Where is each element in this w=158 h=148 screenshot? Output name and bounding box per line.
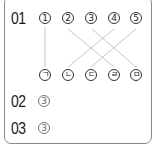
question-number-02: 02 bbox=[11, 93, 26, 110]
top-item-4: 4 bbox=[108, 12, 120, 24]
question-number-03: 03 bbox=[11, 120, 26, 137]
answer-02: 3 bbox=[38, 95, 50, 107]
top-item-2: 2 bbox=[62, 12, 74, 24]
top-item-5: 5 bbox=[130, 12, 142, 24]
bottom-item-digeut: ㄷ bbox=[85, 69, 97, 81]
answer-03: 3 bbox=[38, 122, 50, 134]
top-item-3: 3 bbox=[85, 12, 97, 24]
bottom-item-giyeok: ㄱ bbox=[39, 69, 51, 81]
bottom-item-mieum: ㅁ bbox=[130, 69, 142, 81]
top-item-1: 1 bbox=[39, 12, 51, 24]
bottom-item-rieul: ㄹ bbox=[108, 69, 120, 81]
bottom-item-nieun: ㄴ bbox=[62, 69, 74, 81]
